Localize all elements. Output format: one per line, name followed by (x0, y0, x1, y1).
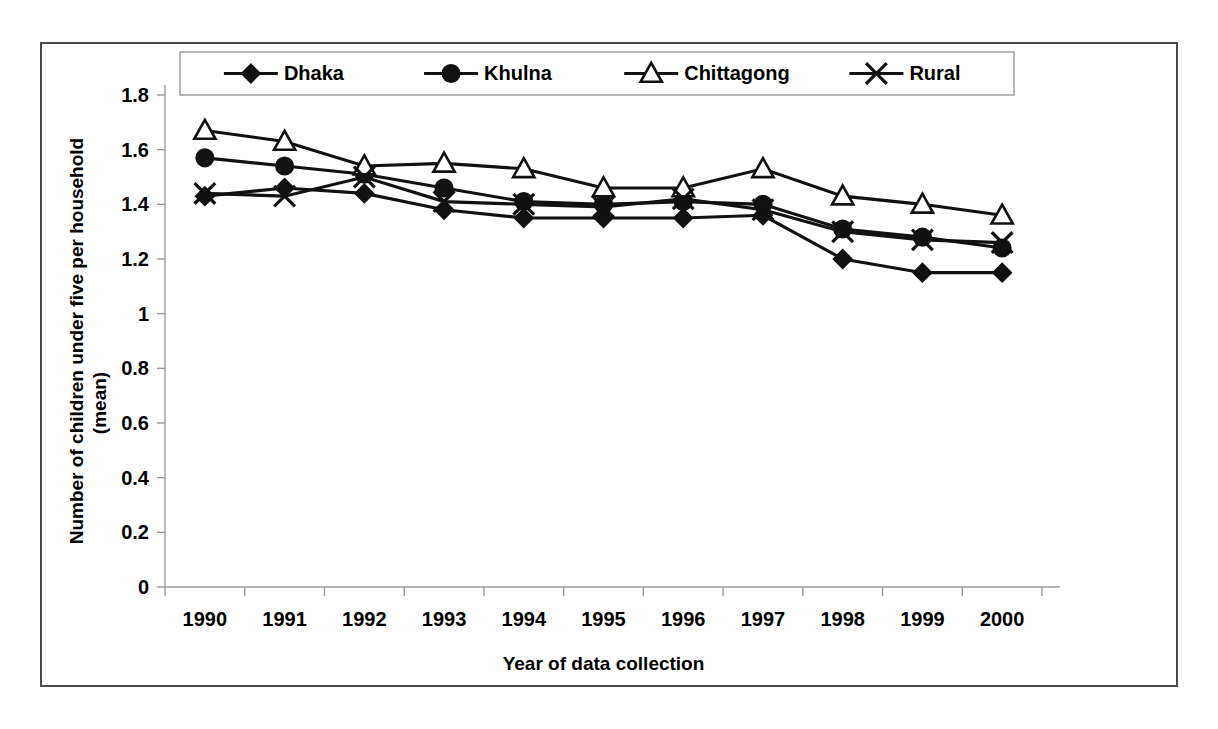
y-tick-label: 0.2 (121, 521, 149, 543)
data-point-dhaka-1996 (674, 209, 692, 227)
y-axis-title-line2: (mean) (89, 372, 110, 434)
x-tick-label: 1996 (661, 608, 706, 630)
y-tick-label: 1.6 (121, 139, 149, 161)
legend-label-dhaka: Dhaka (284, 62, 345, 84)
legend-label-chittagong: Chittagong (684, 62, 790, 84)
x-tick-label: 1997 (741, 608, 786, 630)
y-tick-label: 0.4 (121, 467, 150, 489)
data-point-chittagong-1990 (194, 120, 215, 139)
y-tick-label: 0.8 (121, 357, 149, 379)
legend-label-rural: Rural (909, 62, 960, 84)
data-point-khulna-1991 (276, 158, 293, 175)
y-tick-label: 1.8 (121, 84, 149, 106)
data-point-dhaka-1998 (834, 250, 852, 268)
y-axis-title-line1: Number of children under five per househ… (66, 138, 87, 544)
x-axis-title: Year of data collection (503, 653, 705, 674)
y-tick-label: 0 (138, 576, 149, 598)
data-point-chittagong-1997 (752, 158, 773, 177)
y-tick-label: 1.4 (121, 193, 150, 215)
x-tick-label: 1999 (900, 608, 945, 630)
line-chart: 00.20.40.60.811.21.41.61.819901991199219… (42, 44, 1176, 685)
x-tick-label: 1993 (422, 608, 467, 630)
x-tick-label: 1991 (262, 608, 307, 630)
y-tick-label: 0.6 (121, 412, 149, 434)
series-khulna (196, 149, 1010, 256)
y-tick-label: 1 (138, 303, 149, 325)
data-point-dhaka-2000 (993, 264, 1011, 282)
data-point-dhaka-1999 (913, 264, 931, 282)
chart-legend: DhakaKhulnaChittagongRural (180, 52, 1014, 95)
x-tick-label: 2000 (980, 608, 1025, 630)
x-tick-label: 1994 (502, 608, 547, 630)
data-point-khulna-1999 (914, 229, 931, 246)
legend-label-khulna: Khulna (484, 62, 553, 84)
x-tick-label: 1990 (183, 608, 228, 630)
data-point-khulna-1995 (595, 196, 612, 213)
x-tick-label: 1998 (820, 608, 865, 630)
x-tick-label: 1995 (581, 608, 626, 630)
data-point-dhaka-1992 (355, 184, 373, 202)
chart-frame: 00.20.40.60.811.21.41.61.819901991199219… (40, 42, 1178, 687)
y-tick-label: 1.2 (121, 248, 149, 270)
x-tick-label: 1992 (342, 608, 387, 630)
legend-marker-circle (443, 65, 460, 82)
data-point-khulna-1994 (515, 193, 532, 210)
legend-item-chittagong[interactable]: Chittagong (624, 62, 790, 84)
data-point-khulna-1990 (196, 149, 213, 166)
data-point-dhaka-1990 (196, 187, 214, 205)
